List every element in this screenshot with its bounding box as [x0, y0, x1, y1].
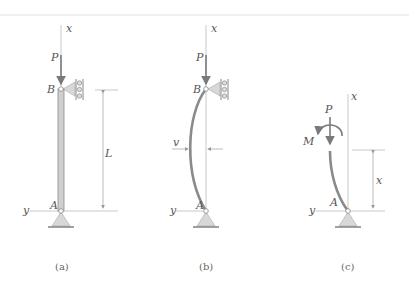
y-axis-label: y	[169, 204, 177, 217]
pin-a-icon	[204, 209, 209, 214]
load-label: P	[195, 51, 204, 64]
pin-support-icon	[335, 212, 361, 227]
x-axis-label: x	[211, 22, 218, 35]
panel-a: x P B y A L (a)	[22, 22, 118, 272]
load-label: P	[50, 51, 59, 64]
load-label: P	[324, 103, 333, 116]
pin-a-label: A	[49, 199, 58, 212]
column-member	[58, 89, 64, 211]
roller-support-icon	[63, 79, 83, 100]
pin-a-icon	[346, 209, 351, 214]
pin-b-label: B	[192, 83, 201, 96]
caption-c: (c)	[341, 261, 355, 272]
pin-a-icon	[59, 209, 64, 214]
caption-b: (b)	[199, 261, 213, 272]
x-axis-label: x	[66, 22, 73, 35]
pin-b-label: B	[46, 83, 55, 96]
y-axis-label: y	[22, 204, 30, 217]
length-label: L	[104, 147, 112, 160]
column-buckling-figure: x P B y A L (a)	[0, 0, 409, 288]
buckled-column	[190, 89, 206, 211]
height-label: x	[376, 174, 383, 187]
caption-a: (a)	[55, 261, 69, 272]
pin-a-label: A	[329, 196, 338, 209]
pin-support-icon	[48, 212, 74, 227]
roller-support-icon	[208, 79, 228, 100]
panel-b: x P B v y A (b)	[169, 22, 228, 272]
deflection-label: v	[173, 136, 180, 149]
pin-support-icon	[193, 212, 219, 227]
panel-c: x P M x y A (c)	[302, 90, 385, 272]
moment-label: M	[302, 135, 315, 148]
pin-b-icon	[204, 87, 209, 92]
y-axis-label: y	[308, 204, 316, 217]
pin-b-icon	[59, 87, 64, 92]
pin-a-label: A	[195, 199, 204, 212]
x-axis-label: x	[351, 90, 358, 103]
